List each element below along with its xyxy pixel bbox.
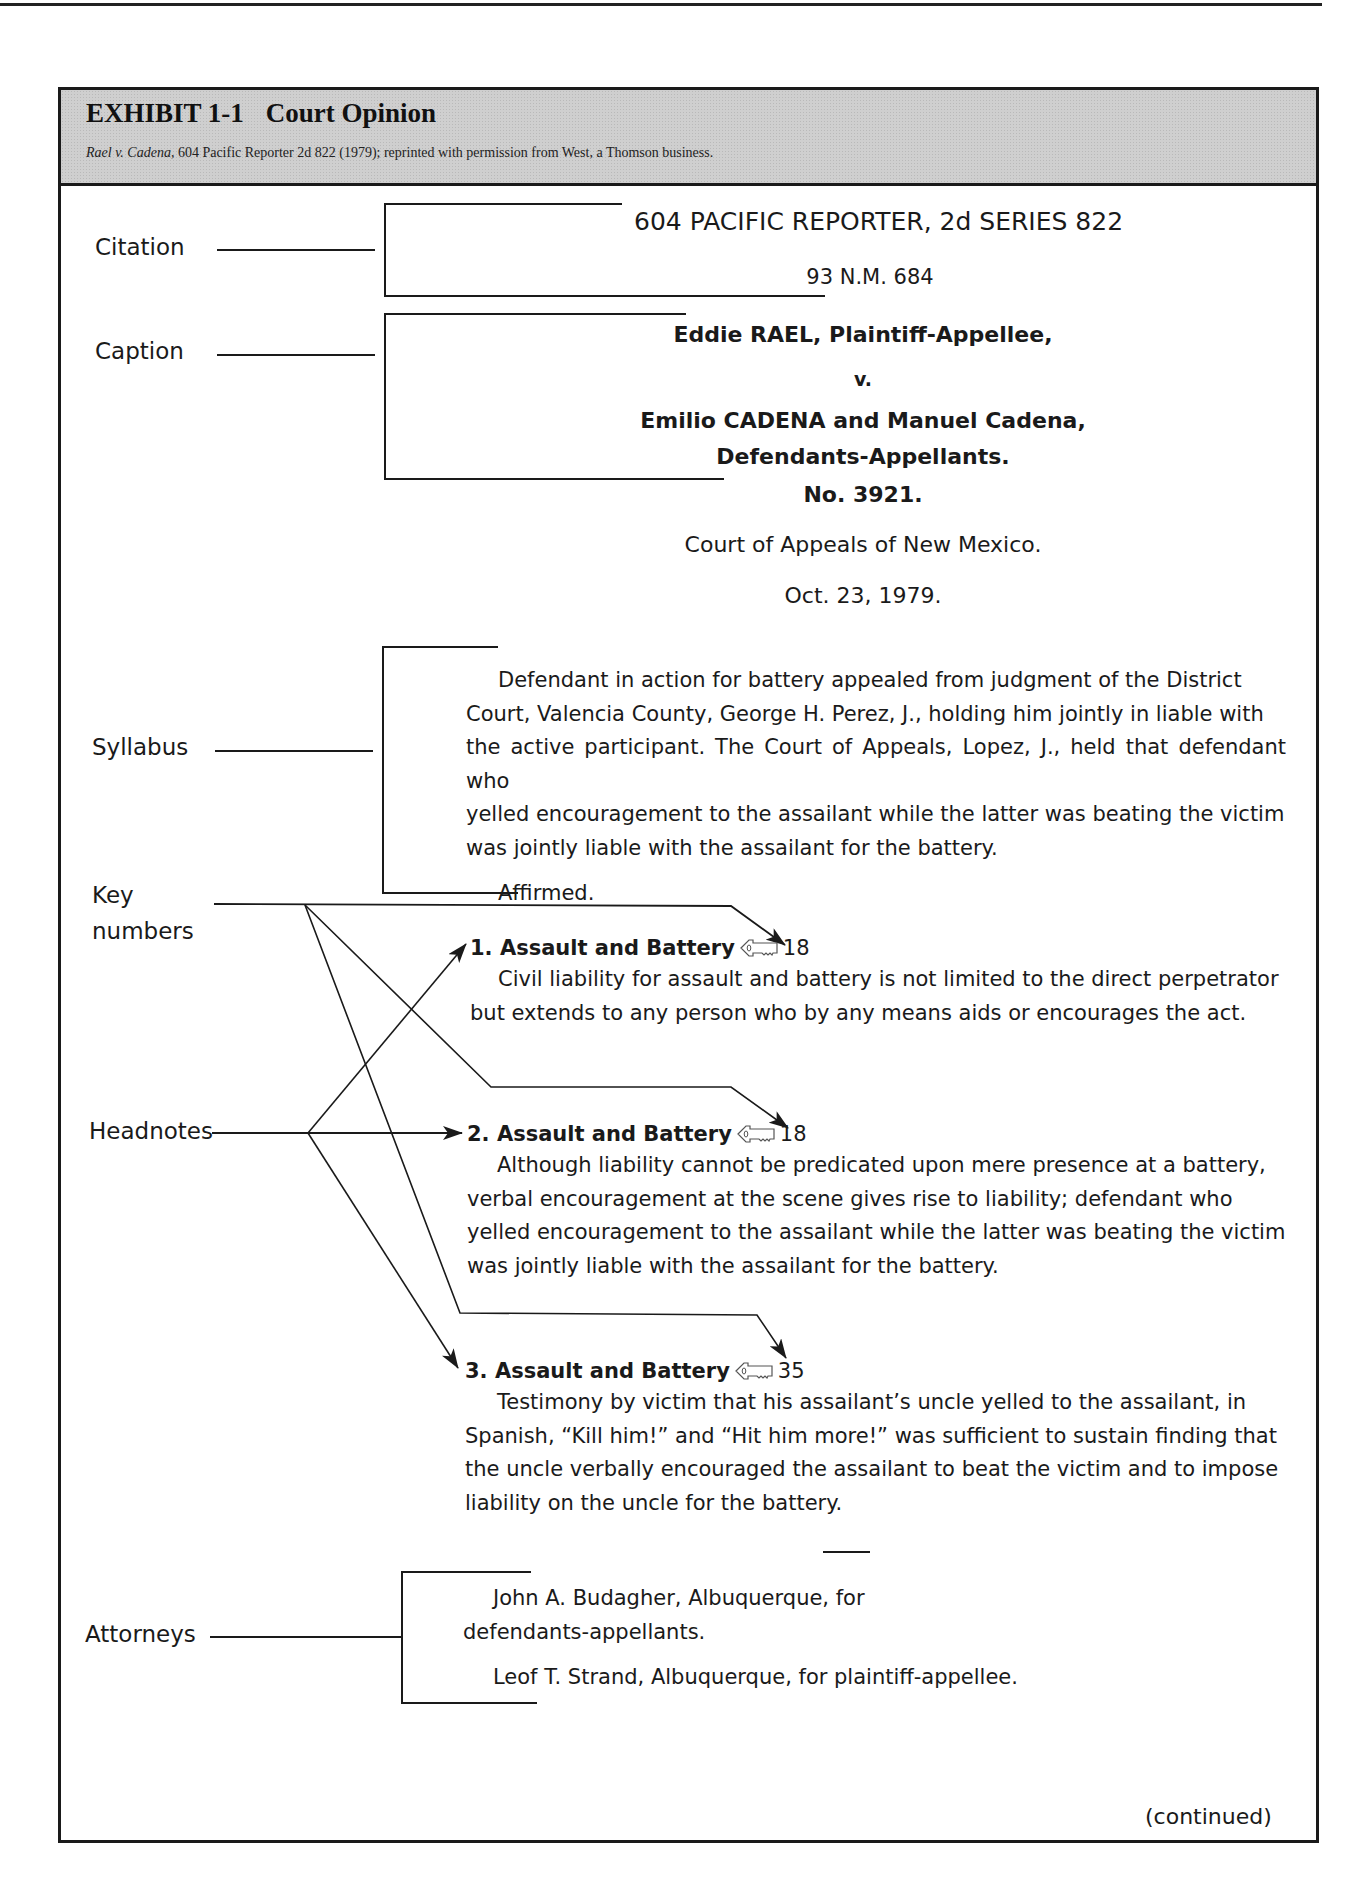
reporter-citation: 604 PACIFIC REPORTER, 2d SERIES 822: [634, 209, 1098, 234]
syllabus-line: was jointly liable with the assailant fo…: [466, 832, 1286, 866]
key-number: 35: [778, 1359, 805, 1383]
west-key-icon: [734, 1361, 776, 1381]
court-name: Court of Appeals of New Mexico.: [563, 534, 1163, 556]
headnote-line: yelled encouragement to the assailant wh…: [467, 1216, 1286, 1250]
headnote-number: 3.: [465, 1359, 488, 1383]
caption-plaintiff: Eddie RAEL, Plaintiff-Appellee,: [563, 324, 1163, 346]
syllabus-line: the active participant. The Court of App…: [466, 731, 1286, 798]
page-top-rule: [0, 3, 1322, 6]
label-caption: Caption: [95, 340, 184, 363]
label-key-numbers-line1: Key: [92, 884, 134, 907]
docket-number: No. 3921.: [563, 484, 1163, 506]
attorney-defense-line1: John A. Budagher, Albuquerque, for: [463, 1582, 1163, 1616]
west-key-icon: [739, 938, 781, 958]
headnote-3: 3. Assault and Battery35 Testimony by vi…: [465, 1361, 1286, 1520]
attorneys-block: John A. Budagher, Albuquerque, for defen…: [463, 1582, 1163, 1695]
west-key-icon: [736, 1124, 778, 1144]
headnote-number: 1.: [470, 936, 493, 960]
headnote-line: Civil liability for assault and battery …: [470, 963, 1286, 997]
exhibit-source: Rael v. Cadena, 604 Pacific Reporter 2d …: [86, 145, 713, 161]
source-text: 604 Pacific Reporter 2d 822 (1979); repr…: [174, 145, 713, 160]
headnote-title: 1. Assault and Battery18: [470, 938, 1286, 959]
headnote-number: 2.: [467, 1122, 490, 1146]
official-citation: 93 N.M. 684: [770, 267, 970, 288]
headnote-line: Although liability cannot be predicated …: [467, 1149, 1286, 1183]
headnote-title: 3. Assault and Battery35: [465, 1361, 1286, 1382]
syllabus-line: yelled encouragement to the assailant wh…: [466, 798, 1286, 832]
exhibit-header: EXHIBIT 1-1Court Opinion Rael v. Cadena,…: [61, 90, 1316, 186]
attorney-defense-line2: defendants-appellants.: [463, 1616, 1163, 1650]
label-key-numbers-line2: numbers: [92, 920, 194, 943]
attorney-plaintiff: Leof T. Strand, Albuquerque, for plainti…: [463, 1661, 1163, 1695]
label-headnotes: Headnotes: [89, 1120, 213, 1143]
key-number: 18: [783, 936, 810, 960]
headnote-title: 2. Assault and Battery18: [467, 1124, 1286, 1145]
syllabus-line: Defendant in action for battery appealed…: [466, 664, 1286, 698]
headnote-line: verbal encouragement at the scene gives …: [467, 1183, 1286, 1217]
headnote-line: the uncle verbally encouraged the assail…: [465, 1453, 1286, 1487]
syllabus-text: Defendant in action for battery appealed…: [466, 664, 1286, 911]
disposition: Affirmed.: [466, 877, 1286, 911]
decision-date: Oct. 23, 1979.: [563, 585, 1163, 607]
headnote-line: liability on the uncle for the battery.: [465, 1487, 1286, 1521]
headnote-line: Spanish, “Kill him!” and “Hit him more!”…: [465, 1420, 1286, 1454]
label-attorneys: Attorneys: [85, 1623, 196, 1646]
headnote-line: but extends to any person who by any mea…: [470, 997, 1286, 1031]
headnote-2: 2. Assault and Battery18 Although liabil…: [467, 1124, 1286, 1283]
headnote-line: Testimony by victim that his assailant’s…: [465, 1386, 1286, 1420]
key-number: 18: [780, 1122, 807, 1146]
caption-versus: v.: [563, 370, 1163, 389]
syllabus-line: Court, Valencia County, George H. Perez,…: [466, 698, 1286, 732]
exhibit-title: EXHIBIT 1-1Court Opinion: [86, 98, 436, 129]
exhibit-number: EXHIBIT 1-1: [86, 98, 244, 128]
exhibit-name: Court Opinion: [266, 98, 436, 128]
label-citation: Citation: [95, 236, 185, 259]
continued-note: (continued): [1145, 1806, 1272, 1828]
headnote-topic: Assault and Battery: [495, 1359, 730, 1383]
caption-defendants: Emilio CADENA and Manuel Cadena,: [563, 410, 1163, 432]
caption-defendants-role: Defendants-Appellants.: [563, 446, 1163, 468]
headnote-topic: Assault and Battery: [497, 1122, 732, 1146]
headnote-1: 1. Assault and Battery18 Civil liability…: [470, 938, 1286, 1030]
headnote-topic: Assault and Battery: [500, 936, 735, 960]
case-name: Rael v. Cadena,: [86, 145, 174, 160]
headnote-line: was jointly liable with the assailant fo…: [467, 1250, 1286, 1284]
label-syllabus: Syllabus: [92, 736, 188, 759]
